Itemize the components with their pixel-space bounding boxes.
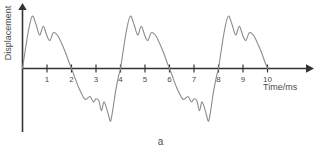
y-axis-label: Displacement bbox=[3, 0, 13, 69]
x-axis-tick-label: 6 bbox=[162, 75, 178, 85]
axes-group bbox=[18, 3, 314, 132]
waveform-figure: 12345678910 Displacement Time/ms a bbox=[0, 0, 321, 159]
x-axis-tick-label: 5 bbox=[137, 75, 153, 85]
x-axis-tick-label: 4 bbox=[113, 75, 129, 85]
x-axis-tick-label: 2 bbox=[64, 75, 80, 85]
x-axis-tick-label: 9 bbox=[235, 75, 251, 85]
x-axis-label: Time/ms bbox=[263, 82, 297, 92]
x-axis-tick-label: 7 bbox=[186, 75, 202, 85]
figure-caption: a bbox=[0, 136, 321, 147]
x-axis-tick-label: 3 bbox=[88, 75, 104, 85]
x-axis-tick-label: 8 bbox=[211, 75, 227, 85]
y-axis-arrow-icon bbox=[18, 3, 26, 10]
x-axis-arrow-icon bbox=[306, 64, 314, 72]
x-axis-tick-label: 1 bbox=[39, 75, 55, 85]
